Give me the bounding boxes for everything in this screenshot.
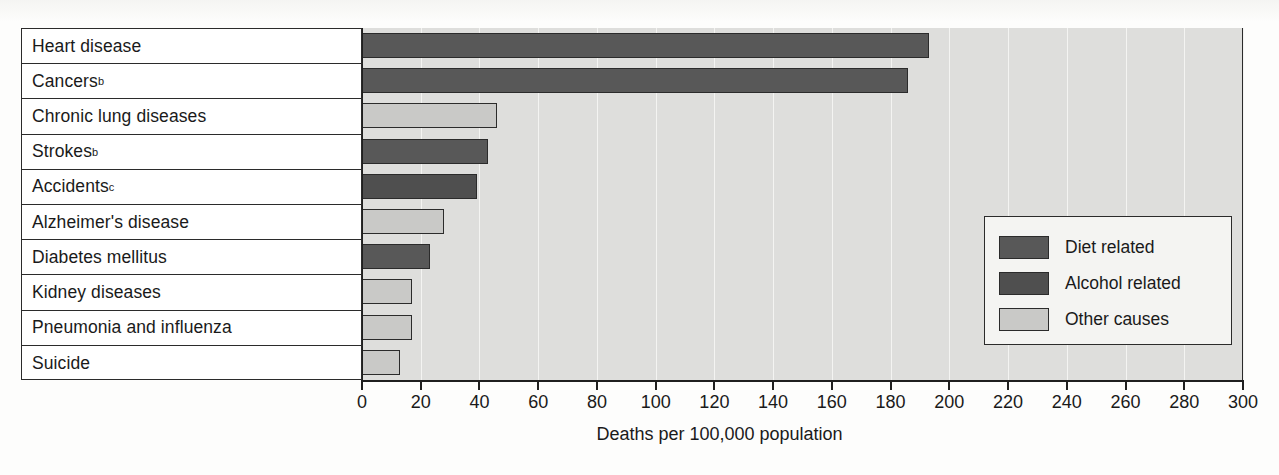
category-label: Suicide xyxy=(22,346,363,381)
bar-row xyxy=(362,169,1243,204)
category-label: Heart disease xyxy=(22,29,363,64)
x-tick-240 xyxy=(1066,381,1068,390)
x-tick-200 xyxy=(948,381,950,390)
x-tick-label: 20 xyxy=(411,392,431,413)
legend-swatch-diet xyxy=(999,236,1049,259)
x-tick-label: 60 xyxy=(528,392,548,413)
x-tick-280 xyxy=(1183,381,1185,390)
legend-item: Diet related xyxy=(999,229,1231,265)
category-label-text: Kidney diseases xyxy=(32,282,161,303)
category-label: Accidentsc xyxy=(22,170,363,205)
bar xyxy=(362,244,430,269)
x-tick-label: 120 xyxy=(699,392,729,413)
category-label-text: Strokes xyxy=(32,141,92,162)
x-axis-line xyxy=(362,380,1244,382)
bar-row xyxy=(362,134,1243,169)
x-tick-label: 160 xyxy=(817,392,847,413)
category-label-box: Heart diseaseCancersbChronic lung diseas… xyxy=(21,28,362,380)
category-label: Strokesb xyxy=(22,135,363,170)
x-tick-260 xyxy=(1125,381,1127,390)
x-tick-160 xyxy=(831,381,833,390)
category-label: Cancersb xyxy=(22,64,363,99)
x-tick-label: 300 xyxy=(1228,392,1258,413)
legend-label: Alcohol related xyxy=(1065,273,1181,294)
x-tick-label: 280 xyxy=(1169,392,1199,413)
x-tick-label: 140 xyxy=(758,392,788,413)
legend-label: Diet related xyxy=(1065,237,1155,258)
bar xyxy=(362,68,908,93)
x-tick-label: 0 xyxy=(357,392,367,413)
x-tick-label: 220 xyxy=(993,392,1023,413)
bar xyxy=(362,315,412,340)
x-tick-220 xyxy=(1007,381,1009,390)
category-label-text: Cancers xyxy=(32,71,98,92)
category-label: Diabetes mellitus xyxy=(22,240,363,275)
x-tick-100 xyxy=(655,381,657,390)
x-tick-140 xyxy=(772,381,774,390)
category-label-text: Chronic lung diseases xyxy=(32,106,206,127)
x-tick-40 xyxy=(478,381,480,390)
x-tick-label: 200 xyxy=(934,392,964,413)
category-label: Chronic lung diseases xyxy=(22,99,363,134)
legend-item: Other causes xyxy=(999,301,1231,337)
legend-label: Other causes xyxy=(1065,309,1169,330)
x-tick-20 xyxy=(420,381,422,390)
bar xyxy=(362,33,929,58)
x-tick-label: 260 xyxy=(1111,392,1141,413)
x-tick-0 xyxy=(361,381,363,390)
bar-row xyxy=(362,345,1243,380)
bar xyxy=(362,350,400,375)
gridline-300 xyxy=(1243,28,1244,380)
category-label-text: Diabetes mellitus xyxy=(32,247,167,268)
category-label-text: Accidents xyxy=(32,176,109,197)
bar xyxy=(362,279,412,304)
x-axis-title: Deaths per 100,000 population xyxy=(0,424,1279,445)
bar xyxy=(362,174,477,199)
category-label-text: Pneumonia and influenza xyxy=(32,317,232,338)
x-tick-300 xyxy=(1242,381,1244,390)
x-axis-title-text: Deaths per 100,000 population xyxy=(596,424,842,445)
x-tick-120 xyxy=(713,381,715,390)
legend-swatch-other xyxy=(999,308,1049,331)
category-label: Alzheimer's disease xyxy=(22,205,363,240)
category-label: Pneumonia and influenza xyxy=(22,311,363,346)
category-label-text: Heart disease xyxy=(32,36,141,57)
bar xyxy=(362,209,444,234)
category-label: Kidney diseases xyxy=(22,275,363,310)
bar xyxy=(362,139,488,164)
x-tick-label: 240 xyxy=(1052,392,1082,413)
mortality-bar-chart: Heart diseaseCancersbChronic lung diseas… xyxy=(0,0,1279,475)
bar xyxy=(362,103,497,128)
x-tick-label: 40 xyxy=(469,392,489,413)
x-tick-60 xyxy=(537,381,539,390)
legend-swatch-alcohol xyxy=(999,272,1049,295)
bar-row xyxy=(362,63,1243,98)
bar-row xyxy=(362,98,1243,133)
x-tick-label: 100 xyxy=(641,392,671,413)
category-label-text: Alzheimer's disease xyxy=(32,212,189,233)
bar-row xyxy=(362,28,1243,63)
x-tick-label: 180 xyxy=(876,392,906,413)
chart-legend: Diet relatedAlcohol relatedOther causes xyxy=(984,216,1232,345)
x-tick-80 xyxy=(596,381,598,390)
x-tick-180 xyxy=(890,381,892,390)
x-tick-label: 80 xyxy=(587,392,607,413)
category-label-text: Suicide xyxy=(32,353,90,374)
legend-item: Alcohol related xyxy=(999,265,1231,301)
